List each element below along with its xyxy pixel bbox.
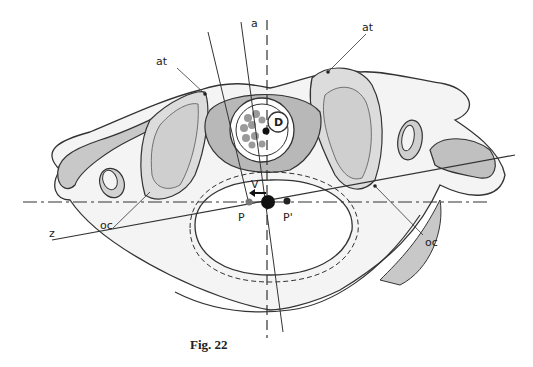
point-p: [246, 199, 253, 206]
label-dens: D: [274, 116, 283, 129]
label-p: P: [238, 212, 245, 223]
label-at-right: at: [362, 22, 373, 33]
label-z: z: [49, 228, 55, 239]
point-center: [261, 195, 275, 209]
leader-at-right: [328, 34, 366, 72]
label-oc-left: oc: [100, 220, 113, 231]
point-p-prime: [284, 198, 291, 205]
leader-at-left: [177, 68, 205, 94]
label-v: V: [251, 179, 259, 190]
figure-caption: Fig. 22: [190, 337, 228, 353]
vertebra-diagram: [0, 0, 533, 367]
label-at-left: at: [156, 56, 167, 67]
label-a: a: [251, 18, 258, 29]
label-p-prime: P': [283, 212, 293, 223]
label-oc-right: oc: [425, 237, 438, 248]
